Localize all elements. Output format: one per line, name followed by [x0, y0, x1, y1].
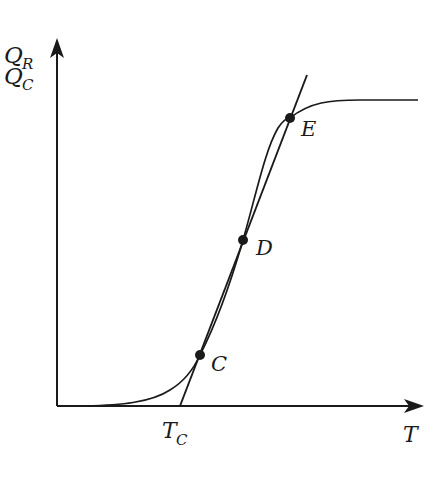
- svg-text:C: C: [22, 76, 34, 94]
- point-d-label: D: [255, 236, 273, 260]
- svg-text:Q: Q: [4, 63, 23, 89]
- point-c: [195, 350, 205, 360]
- point-e: [285, 113, 295, 123]
- heat-balance-diagram: C D E Q R Q C T C T: [0, 0, 445, 477]
- point-e-label: E: [300, 117, 316, 141]
- point-d: [238, 235, 248, 245]
- y-axis-label: Q R Q C: [4, 42, 34, 94]
- x-axis-label: T: [403, 422, 420, 447]
- svg-text:C: C: [176, 431, 188, 449]
- tc-label: T C: [162, 418, 188, 449]
- point-c-label: C: [211, 352, 227, 376]
- heat-generation-curve: [85, 100, 418, 406]
